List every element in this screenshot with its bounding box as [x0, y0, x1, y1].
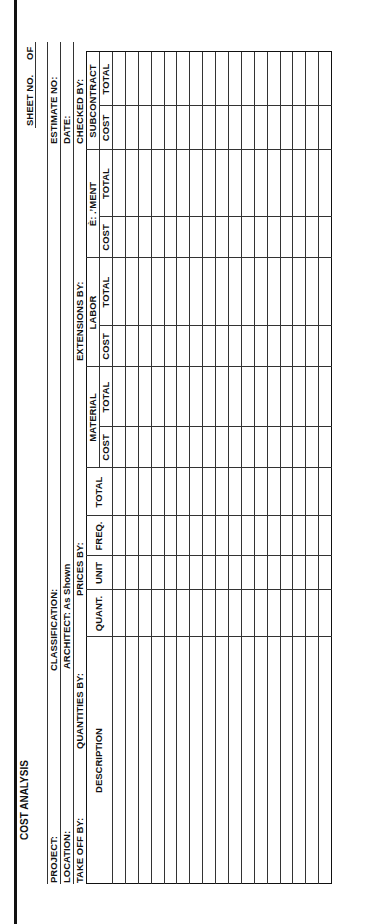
row-rule	[241, 52, 242, 884]
table-row[interactable]	[190, 52, 202, 883]
col-material-total: TOTAL	[100, 367, 111, 427]
info-rule-3	[73, 42, 74, 884]
row-rule	[176, 52, 177, 884]
table-row[interactable]	[319, 52, 331, 883]
location-field[interactable]: LOCATION:	[61, 831, 72, 883]
col-quant: QUANT.	[93, 590, 104, 637]
col-total: TOTAL	[93, 468, 104, 516]
row-rule	[292, 52, 293, 884]
table-row[interactable]	[203, 52, 215, 883]
row-rule	[267, 52, 268, 884]
row-rule	[164, 52, 165, 884]
table-row[interactable]	[216, 52, 228, 883]
table-row[interactable]	[113, 52, 125, 883]
col-subcontract-total: TOTAL	[100, 52, 111, 106]
row-rule	[215, 52, 216, 884]
row-rule	[280, 52, 281, 884]
prices-by-field[interactable]: PRICES BY:	[74, 542, 85, 596]
architect-field[interactable]: ARCHITECT: As Shown	[61, 564, 72, 669]
date-field[interactable]: DATE:	[61, 116, 72, 144]
table-row[interactable]	[268, 52, 280, 883]
table-row[interactable]	[293, 52, 305, 883]
table-row[interactable]	[281, 52, 293, 883]
project-field[interactable]: PROJECT:	[48, 836, 59, 883]
table-row[interactable]	[165, 52, 177, 883]
col-material-cost: COST	[100, 427, 111, 468]
info-rule-2	[60, 42, 61, 884]
col-unit: UNIT	[93, 556, 104, 590]
table-row[interactable]	[306, 52, 318, 883]
form-title: COST ANALYSIS	[19, 760, 30, 840]
page-top-rule	[14, 0, 17, 924]
sheet-of-label: OF	[24, 47, 35, 60]
checked-by-field[interactable]: CHECKED BY:	[74, 79, 85, 144]
row-rule	[318, 52, 319, 884]
sheet-no-underline	[35, 42, 36, 128]
row-rule	[305, 52, 306, 884]
estimate-no-field[interactable]: ESTIMATE NO:	[48, 77, 59, 144]
row-rule	[202, 52, 203, 884]
table-row[interactable]	[139, 52, 151, 883]
row-rule	[254, 52, 255, 884]
table-row[interactable]	[152, 52, 164, 883]
group-material: MATERIAL	[87, 367, 98, 468]
row-rule	[138, 52, 139, 884]
row-rule	[189, 52, 190, 884]
take-off-by-field[interactable]: TAKE OFF BY:	[74, 818, 85, 883]
table-bottom-border	[331, 52, 332, 884]
group-subcontract: SUBCONTRACT	[87, 52, 98, 150]
table-left-border	[86, 883, 332, 884]
sheet-no-label: SHEET NO.	[24, 75, 35, 126]
table-row[interactable]	[229, 52, 241, 883]
col-equipment-total: TOTAL	[100, 150, 111, 217]
col-labor-cost: COST	[100, 326, 111, 367]
table-row[interactable]	[126, 52, 138, 883]
table-row[interactable]	[255, 52, 267, 883]
group-labor: LABOR	[87, 258, 98, 367]
col-equipment-cost: COST	[100, 217, 111, 258]
cost-analysis-sheet: COST ANALYSIS SHEET NO. OF PROJECT: LOCA…	[0, 0, 377, 924]
col-freq: FREQ.	[93, 516, 104, 556]
table-row[interactable]	[242, 52, 254, 883]
extensions-by-field[interactable]: EXTENSIONS BY:	[74, 281, 85, 361]
col-subcontract-cost: COST	[100, 106, 111, 150]
row-rule	[125, 52, 126, 884]
row-rule	[228, 52, 229, 884]
table-row[interactable]	[177, 52, 189, 883]
info-rule-1	[47, 42, 48, 884]
group-equipment: È: .ʼMENT	[87, 150, 98, 258]
row-rule	[151, 52, 152, 884]
classification-field[interactable]: CLASSIFICATION:	[48, 589, 59, 671]
col-labor-total: TOTAL	[100, 258, 111, 326]
col-description: DESCRIPTION	[93, 637, 104, 884]
quantities-by-field[interactable]: QUANTITIES BY:	[74, 673, 85, 749]
